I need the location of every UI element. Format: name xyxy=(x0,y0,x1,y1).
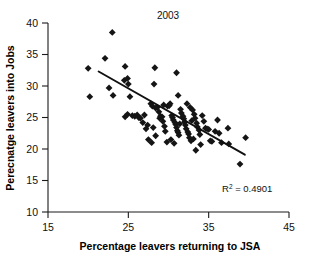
y-tick-label: 20 xyxy=(26,143,38,155)
y-tick-label: 30 xyxy=(26,80,38,92)
data-point xyxy=(151,64,158,71)
data-point xyxy=(197,141,204,148)
data-point xyxy=(225,125,232,132)
data-point xyxy=(175,92,182,99)
chart-title: 2003 xyxy=(157,10,180,21)
data-point xyxy=(122,63,129,70)
data-point xyxy=(214,117,221,124)
data-point xyxy=(199,112,206,119)
y-tick-label: 10 xyxy=(26,206,38,218)
data-point xyxy=(127,93,134,100)
data-point xyxy=(173,69,180,76)
data-point xyxy=(151,81,158,88)
x-axis-ticks: 15253545 xyxy=(42,212,295,233)
data-point xyxy=(109,29,116,36)
data-point xyxy=(86,93,93,100)
scatter-chart-figure: 2003 10152025303540 15253545 Perecnatge … xyxy=(0,0,312,260)
data-point xyxy=(152,132,159,139)
data-point xyxy=(237,161,244,168)
x-tick-label: 35 xyxy=(203,221,215,233)
r-squared-value: = 0.4901 xyxy=(233,183,273,194)
chart-canvas: 2003 10152025303540 15253545 Perecnatge … xyxy=(0,0,312,260)
data-point xyxy=(102,55,109,62)
y-axis-ticks: 10152025303540 xyxy=(26,17,48,218)
x-tick-label: 25 xyxy=(122,221,134,233)
y-tick-label: 35 xyxy=(26,48,38,60)
y-axis-title: Perecnatge leavers into Jobs xyxy=(4,45,16,190)
data-point xyxy=(196,131,203,138)
trend-line xyxy=(99,72,245,155)
x-tick-label: 45 xyxy=(283,221,295,233)
data-point xyxy=(85,65,92,72)
data-point xyxy=(200,118,207,125)
x-tick-label: 15 xyxy=(42,221,54,233)
data-point xyxy=(242,134,249,141)
y-tick-label: 25 xyxy=(26,111,38,123)
y-tick-label: 15 xyxy=(26,174,38,186)
data-points-layer xyxy=(85,29,249,167)
data-point xyxy=(106,84,113,91)
r-squared-annotation: R2 = 0.4901 xyxy=(222,183,272,195)
y-tick-label: 40 xyxy=(26,17,38,29)
data-point xyxy=(192,147,199,154)
data-point xyxy=(161,123,168,130)
x-axis-title: Percentage leavers returning to JSA xyxy=(80,240,261,252)
data-point xyxy=(110,92,117,99)
data-point xyxy=(162,128,169,135)
